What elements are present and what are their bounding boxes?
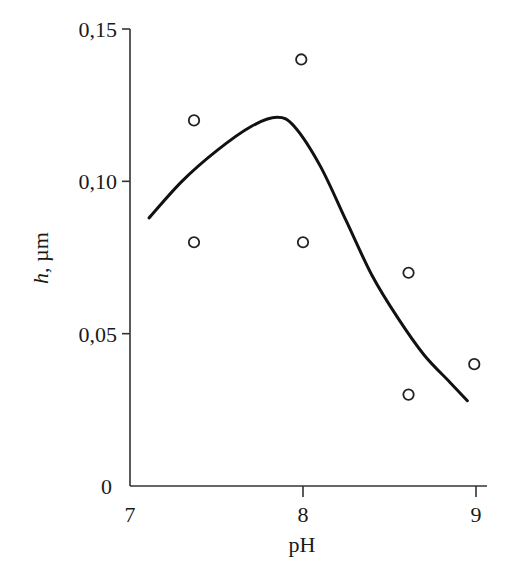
x-tick-label: 8 — [298, 502, 309, 527]
data-point-circle — [403, 389, 413, 399]
x-ticks: 789 — [125, 486, 482, 527]
data-point-circle — [469, 359, 479, 369]
axes — [130, 29, 487, 486]
fit-curve — [149, 117, 467, 400]
data-point-circle — [189, 237, 199, 247]
x-axis-title: pH — [289, 532, 316, 557]
data-point-circle — [296, 54, 306, 64]
y-tick-label: 0,10 — [79, 169, 118, 194]
y-tick-label: 0,05 — [79, 322, 118, 347]
data-point-circle — [189, 115, 199, 125]
data-point-circle — [403, 268, 413, 278]
y-axis-title: h, µm — [28, 232, 53, 284]
chart: 00,050,100,15 789 pH h, µm — [0, 0, 515, 575]
y-axis-var: h — [28, 273, 53, 284]
y-tick-label: 0 — [101, 474, 112, 499]
data-point-circle — [298, 237, 308, 247]
data-points — [189, 54, 480, 400]
x-tick-label: 9 — [471, 502, 482, 527]
x-tick-label: 7 — [125, 502, 136, 527]
y-ticks: 00,050,100,15 — [79, 17, 131, 499]
y-axis-unit: , µm — [28, 232, 53, 273]
y-tick-label: 0,15 — [79, 17, 118, 42]
